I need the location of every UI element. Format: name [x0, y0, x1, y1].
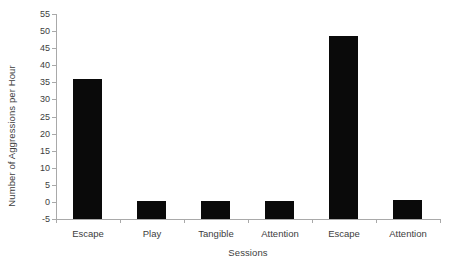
y-axis-tick-label: 35	[24, 78, 50, 87]
y-axis-tick	[52, 48, 56, 49]
y-axis-tick	[52, 31, 56, 32]
x-axis-tick	[120, 219, 121, 223]
x-axis-tick	[440, 219, 441, 223]
y-axis-tick	[52, 151, 56, 152]
y-axis-tick-label: 20	[24, 129, 50, 138]
y-axis-line	[56, 14, 57, 220]
x-axis-category-label: Play	[120, 228, 184, 239]
plot-area: 5550454035302520151050-5 EscapePlayTangi…	[56, 14, 440, 220]
y-axis-tick	[52, 202, 56, 203]
x-axis-tick	[312, 219, 313, 223]
bar-chart-figure: Number of Aggressions per Hour 555045403…	[0, 0, 453, 272]
bar	[73, 79, 102, 219]
x-axis-category-label: Escape	[312, 228, 376, 239]
bar	[393, 200, 422, 219]
y-axis-tick-label: 0	[24, 197, 50, 206]
y-axis-tick-label: 15	[24, 146, 50, 155]
y-axis-tick-label: 10	[24, 163, 50, 172]
bar	[201, 201, 230, 219]
y-axis-tick	[52, 65, 56, 66]
bar	[137, 201, 166, 219]
y-axis-tick-label: 5	[24, 180, 50, 189]
x-axis-tick	[56, 219, 57, 223]
bar	[265, 201, 294, 219]
x-axis-tick	[248, 219, 249, 223]
x-axis-tick	[184, 219, 185, 223]
y-axis-tick	[52, 99, 56, 100]
y-axis-tick	[52, 14, 56, 15]
y-axis-tick-label: 25	[24, 112, 50, 121]
x-axis-category-label: Attention	[248, 228, 312, 239]
y-axis-tick-label: -5	[24, 215, 50, 224]
y-axis-tick	[52, 168, 56, 169]
y-axis-tick	[52, 185, 56, 186]
y-axis-tick-label: 30	[24, 95, 50, 104]
bar	[329, 36, 358, 219]
y-axis-tick-label: 40	[24, 61, 50, 70]
y-axis-tick	[52, 117, 56, 118]
y-axis-tick-label: 50	[24, 27, 50, 36]
y-axis-tick-label: 55	[24, 10, 50, 19]
y-axis-tick-label: 45	[24, 44, 50, 53]
y-axis-tick	[52, 82, 56, 83]
x-axis-tick	[376, 219, 377, 223]
x-axis-title: Sessions	[56, 247, 440, 258]
y-axis-tick	[52, 134, 56, 135]
x-axis-category-label: Attention	[376, 228, 440, 239]
y-axis-title: Number of Aggressions per Hour	[0, 0, 22, 272]
x-axis-category-label: Tangible	[184, 228, 248, 239]
x-axis-category-label: Escape	[56, 228, 120, 239]
